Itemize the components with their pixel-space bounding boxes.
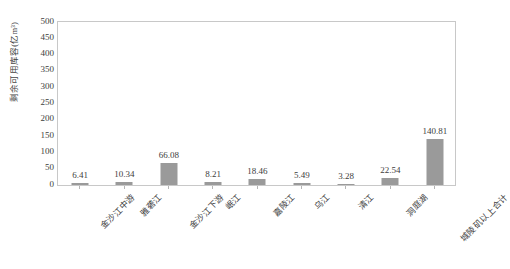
x-axis-tick-label: 金沙江中游 <box>98 192 137 231</box>
bar-group: 8.21 <box>191 22 235 185</box>
x-axis-tick-label: 洞庭湖 <box>403 192 429 218</box>
bar <box>426 139 443 185</box>
bar-value-label: 22.54 <box>380 165 400 175</box>
y-axis-tick-label: 250 <box>41 98 55 107</box>
bar-value-label: 10.34 <box>114 169 134 179</box>
plot-area: 6.4110.3466.088.2118.465.493.2822.54140.… <box>57 21 456 186</box>
bar-value-label: 6.41 <box>72 170 88 180</box>
bar <box>249 179 266 185</box>
bar <box>72 183 89 185</box>
y-axis-tick-label: 350 <box>41 65 55 74</box>
bar-value-label: 3.28 <box>338 171 354 181</box>
x-axis-tick-mark <box>257 186 258 189</box>
x-axis-tick-mark <box>212 186 213 189</box>
x-axis-tick-mark <box>301 186 302 189</box>
bar <box>293 183 310 185</box>
bar-value-label: 66.08 <box>159 150 179 160</box>
bar-group: 6.41 <box>58 22 102 185</box>
y-axis-tick-label: 0 <box>50 180 55 189</box>
x-axis-tick-label: 金沙江下游 <box>187 192 226 231</box>
bar-group: 140.81 <box>413 22 457 185</box>
bar-group: 66.08 <box>147 22 191 185</box>
x-axis-tick-mark <box>79 186 80 189</box>
y-axis-tick-label: 200 <box>41 114 55 123</box>
y-axis-tick-label: 300 <box>41 82 55 91</box>
bar-value-label: 8.21 <box>205 169 221 179</box>
bar-group: 10.34 <box>102 22 146 185</box>
y-axis-tick-label: 150 <box>41 131 55 140</box>
bar-group: 22.54 <box>368 22 412 185</box>
bar <box>338 184 355 185</box>
x-axis-tick-mark <box>434 186 435 189</box>
y-axis-tick-label: 400 <box>41 49 55 58</box>
bar-group: 18.46 <box>235 22 279 185</box>
bar <box>160 163 177 185</box>
x-axis-tick-label: 清江 <box>356 192 376 212</box>
x-axis-tick-label: 城陵矶以上合计 <box>458 192 510 244</box>
bar-value-label: 18.46 <box>247 166 267 176</box>
x-axis-tick-labels: 金沙江中游雅砻江金沙江下游岷江嘉陵江乌江清江洞庭湖城陵矶以上合计 <box>57 188 456 268</box>
y-axis-tick-label: 450 <box>41 33 55 42</box>
y-axis-tick-labels: 500450400350300250200150100500 <box>25 17 54 186</box>
x-axis-tick-mark <box>168 186 169 189</box>
x-axis-tick-label: 岷江 <box>223 192 243 212</box>
x-axis-tick-mark <box>124 186 125 189</box>
bar <box>116 182 133 185</box>
y-axis-tick-label: 100 <box>41 147 55 156</box>
bar-group: 5.49 <box>280 22 324 185</box>
y-axis-title: 剩余可用库容(亿m³) <box>7 0 19 127</box>
bar-value-label: 5.49 <box>294 170 310 180</box>
bar-value-label: 140.81 <box>422 126 447 136</box>
x-axis-tick-label: 嘉陵江 <box>270 192 296 218</box>
bar <box>205 182 222 185</box>
x-axis-tick-mark <box>390 186 391 189</box>
x-axis-tick-mark <box>345 186 346 189</box>
x-axis-tick-label: 雅砻江 <box>137 192 163 218</box>
bars-layer: 6.4110.3466.088.2118.465.493.2822.54140.… <box>58 22 455 185</box>
y-axis-tick-label: 500 <box>41 17 55 26</box>
bar-group: 3.28 <box>324 22 368 185</box>
y-axis-tick-label: 50 <box>45 163 54 172</box>
bar <box>382 178 399 185</box>
x-axis-tick-label: 乌江 <box>312 192 332 212</box>
